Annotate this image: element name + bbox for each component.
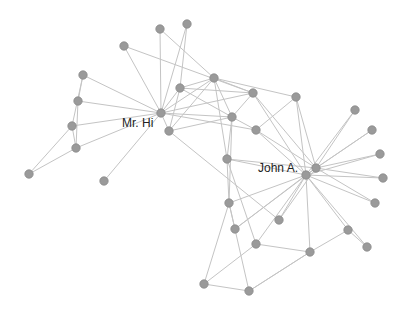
graph-edge — [160, 29, 161, 113]
graph-node[interactable] — [25, 170, 33, 178]
graph-edge — [249, 252, 310, 291]
graph-edge — [124, 46, 161, 113]
graph-edge — [169, 131, 279, 220]
graph-node[interactable] — [68, 122, 76, 130]
graph-edge — [29, 126, 72, 174]
graph-node[interactable] — [79, 71, 87, 79]
graph-edges — [29, 24, 383, 291]
graph-node[interactable] — [302, 171, 310, 179]
graph-node[interactable] — [210, 74, 218, 82]
graph-node[interactable] — [165, 127, 173, 135]
graph-edge — [204, 284, 249, 291]
graph-node[interactable] — [231, 225, 239, 233]
graph-edge — [180, 24, 187, 88]
network-graph: Mr. Hi John A. — [0, 0, 405, 312]
graph-node[interactable] — [200, 280, 208, 288]
graph-edge — [316, 110, 355, 168]
graph-node[interactable] — [376, 150, 384, 158]
graph-edge — [256, 97, 296, 130]
graph-edge — [204, 203, 229, 284]
graph-edge — [310, 230, 348, 252]
graph-node[interactable] — [223, 155, 231, 163]
graph-node[interactable] — [275, 216, 283, 224]
graph-edge — [29, 148, 76, 174]
node-label-john-a: John A. — [258, 161, 298, 175]
graph-node[interactable] — [252, 126, 260, 134]
graph-edge — [256, 175, 306, 244]
graph-node[interactable] — [245, 287, 253, 295]
graph-edge — [256, 244, 310, 252]
graph-node[interactable] — [252, 240, 260, 248]
graph-edge — [180, 88, 232, 117]
graph-node[interactable] — [100, 177, 108, 185]
graph-node[interactable] — [72, 144, 80, 152]
graph-nodes — [25, 20, 387, 295]
graph-node[interactable] — [176, 84, 184, 92]
graph-node[interactable] — [351, 106, 359, 114]
graph-edge — [180, 78, 214, 88]
graph-edge — [227, 159, 229, 203]
graph-node[interactable] — [120, 42, 128, 50]
graph-node[interactable] — [292, 93, 300, 101]
graph-node[interactable] — [344, 226, 352, 234]
graph-node[interactable] — [312, 164, 320, 172]
graph-node[interactable] — [371, 199, 379, 207]
graph-node[interactable] — [368, 126, 376, 134]
graph-node[interactable] — [228, 113, 236, 121]
graph-node[interactable] — [379, 174, 387, 182]
graph-labels: Mr. Hi John A. — [122, 116, 298, 175]
graph-node[interactable] — [363, 243, 371, 251]
graph-edge — [306, 175, 310, 252]
graph-node[interactable] — [249, 89, 257, 97]
graph-edge — [279, 175, 306, 220]
node-label-mr-hi: Mr. Hi — [122, 116, 153, 130]
graph-edge — [204, 244, 256, 284]
graph-edge — [253, 93, 316, 168]
graph-node[interactable] — [156, 25, 164, 33]
graph-node[interactable] — [157, 109, 165, 117]
graph-node[interactable] — [74, 97, 82, 105]
graph-node[interactable] — [183, 20, 191, 28]
graph-edge — [160, 29, 214, 78]
graph-edge — [161, 24, 187, 113]
graph-node[interactable] — [225, 199, 233, 207]
graph-node[interactable] — [306, 248, 314, 256]
